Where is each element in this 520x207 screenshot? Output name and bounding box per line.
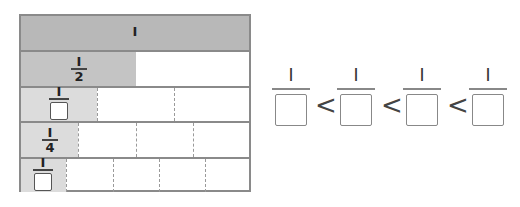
bar-row-quarters: I 4	[21, 123, 249, 159]
divider	[113, 159, 114, 192]
divider	[159, 159, 160, 192]
denominator-answer-box[interactable]	[275, 94, 307, 126]
divider	[97, 88, 98, 121]
denominator-answer-box[interactable]	[406, 94, 438, 126]
numerator: I	[57, 85, 62, 98]
numerator: I	[419, 66, 424, 88]
divider	[193, 123, 194, 157]
numerator: I	[288, 66, 293, 88]
divider	[174, 88, 175, 121]
denominator: 2	[74, 70, 83, 84]
divider	[66, 159, 67, 192]
numerator: I	[353, 66, 358, 88]
fraction-line	[272, 88, 310, 90]
bar-row-fifths: I	[21, 159, 249, 192]
comparison-fraction-3: I	[403, 66, 441, 126]
fraction-line	[469, 88, 507, 90]
denominator-answer-box[interactable]	[472, 94, 504, 126]
label-whole: I	[21, 25, 249, 38]
fraction-line	[337, 88, 375, 90]
fraction-comparison: I < I < I < I	[270, 66, 510, 146]
numerator: I	[77, 55, 82, 68]
bar-row-thirds: I	[21, 88, 249, 123]
comparison-fraction-1: I	[272, 66, 310, 126]
fraction-bar-chart: I I 2 I I 4	[19, 14, 251, 192]
label-one-quarter: I 4	[38, 126, 62, 155]
label-one-third: I	[47, 85, 71, 120]
comparison-fraction-4: I	[469, 66, 507, 126]
fraction-line	[33, 169, 53, 171]
less-than-sign: <	[447, 92, 469, 118]
label-one-fifth: I	[31, 156, 55, 191]
numerator: I	[41, 156, 46, 169]
comparison-fraction-2: I	[337, 66, 375, 126]
numerator: I	[48, 126, 53, 139]
divider	[136, 123, 137, 157]
numerator: I	[485, 66, 490, 88]
whole-label: I	[133, 25, 138, 38]
denominator-answer-box[interactable]	[34, 173, 52, 191]
fraction-line	[49, 98, 69, 100]
divider	[78, 123, 79, 157]
label-one-half: I 2	[67, 55, 91, 84]
less-than-sign: <	[315, 92, 337, 118]
denominator: 4	[45, 141, 54, 155]
fraction-line	[403, 88, 441, 90]
divider	[205, 159, 206, 192]
bar-row-whole: I	[21, 16, 249, 52]
bar-row-halves: I 2	[21, 52, 249, 88]
denominator-answer-box[interactable]	[50, 102, 68, 120]
denominator-answer-box[interactable]	[340, 94, 372, 126]
less-than-sign: <	[381, 92, 403, 118]
